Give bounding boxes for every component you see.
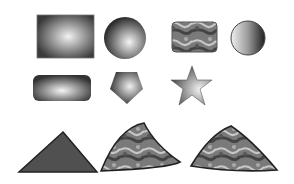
curved-triangle-texture-2[interactable] [191,126,277,171]
shape-canvas [0,0,294,184]
rounded-rect-texture[interactable] [172,22,217,52]
rect-radial[interactable] [37,15,94,58]
shape-svg [0,0,294,184]
curved-triangle-texture[interactable] [101,123,180,171]
rounded-rect-radial[interactable] [33,75,91,101]
star-gradient[interactable] [171,66,212,105]
circle-radial[interactable] [104,17,146,59]
pentagon-radial[interactable] [110,72,143,104]
triangle-solid[interactable] [19,132,97,172]
circle-linear[interactable] [231,21,265,55]
